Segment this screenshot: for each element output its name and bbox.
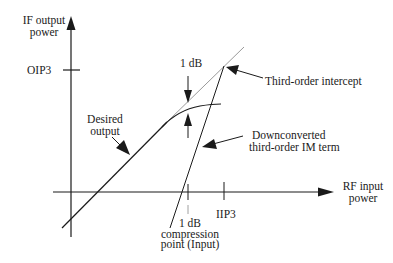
x-axis-arrow-icon bbox=[318, 188, 334, 197]
x-axis-label: RF input power bbox=[333, 180, 393, 204]
x-axis-label-line1: RF input bbox=[333, 180, 393, 192]
desired-output-line1: Desired bbox=[80, 113, 130, 125]
im-term-arrow-icon bbox=[202, 139, 217, 149]
fundamental-extrapolation bbox=[167, 47, 244, 122]
compression-curve bbox=[162, 104, 221, 127]
desired-output-arrow-icon bbox=[116, 140, 130, 155]
fundamental-line bbox=[62, 122, 167, 228]
y-axis-label-line2: power bbox=[15, 26, 73, 38]
desired-output-label: Desired output bbox=[80, 113, 130, 137]
x-axis-label-line2: power bbox=[333, 192, 393, 204]
oip3-label: OIP3 bbox=[27, 64, 51, 76]
one-db-label: 1 dB bbox=[180, 57, 202, 69]
desired-output-line2: output bbox=[80, 125, 130, 137]
compression-point-label: 1 dB compression point (Input) bbox=[158, 218, 222, 250]
one-db-up-arrow-icon bbox=[184, 113, 192, 126]
compression-label-line3: point (Input) bbox=[158, 239, 222, 250]
third-order-intercept-label: Third-order intercept bbox=[265, 75, 362, 87]
intercept-arrow-icon bbox=[226, 65, 239, 75]
im-term-line2: third-order IM term bbox=[249, 141, 340, 153]
im-term-line1: Downconverted bbox=[249, 129, 340, 141]
y-axis bbox=[67, 16, 76, 237]
compression-label-line1: 1 dB bbox=[158, 218, 222, 229]
ip3-diagram: IF output power OIP3 1 dB Third-order in… bbox=[0, 0, 393, 263]
y-axis-label: IF output power bbox=[15, 14, 73, 38]
y-axis-label-line1: IF output bbox=[15, 14, 73, 26]
one-db-down-arrow-icon bbox=[184, 90, 192, 103]
im-term-label: Downconverted third-order IM term bbox=[249, 129, 340, 153]
